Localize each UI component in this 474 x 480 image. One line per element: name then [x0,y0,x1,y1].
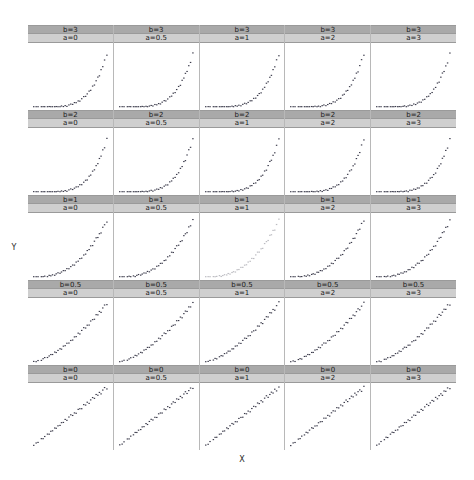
data-point [387,276,388,277]
data-point [351,242,352,243]
data-point [95,165,96,166]
panel-row: b=3a=0b=3a=0.5b=3a=1b=3a=2b=3a=3 [28,25,456,110]
data-point [347,322,348,323]
data-point [174,402,175,403]
scatter-panel: b=2a=0 [28,110,114,195]
data-point [70,104,71,105]
data-point [338,98,339,99]
data-point [295,191,296,192]
data-point [335,186,336,187]
data-point [253,406,254,407]
data-point [402,191,403,192]
scatter-points [28,213,113,280]
data-point [293,191,294,192]
data-point [300,191,301,192]
data-point [172,93,173,94]
data-point [209,441,210,442]
scatter-panel: b=2a=3 [371,110,456,195]
data-point [207,276,208,277]
data-point [387,357,388,358]
data-point [249,185,250,186]
strip-label-b: b=2 [371,110,456,119]
data-point [320,190,321,191]
data-point [293,442,294,443]
data-point [307,354,308,355]
data-point [353,80,354,81]
data-point [169,181,170,182]
data-point [61,190,62,191]
data-point [400,272,401,273]
data-point [364,55,365,56]
data-point [349,86,350,87]
data-point [364,386,365,387]
data-point [400,106,401,107]
data-point [167,256,168,257]
data-point [353,165,354,166]
data-point [386,437,387,438]
data-point [274,389,275,390]
data-point [358,308,359,309]
data-point [298,439,299,440]
data-point [145,191,146,192]
data-point [409,105,410,106]
data-point [447,387,448,388]
data-point [358,229,359,230]
data-point [260,92,261,93]
data-point [165,409,166,410]
data-point [64,345,65,346]
data-point [432,92,433,93]
data-point [269,77,270,78]
strip-label-b: b=2 [285,110,370,119]
data-point [445,391,446,392]
data-point [236,106,237,107]
data-point [295,276,296,277]
data-point [133,275,134,276]
data-point [220,276,221,277]
data-point [313,106,314,107]
data-point [174,248,175,249]
scatter-panel: b=0.5a=2 [285,280,371,365]
data-point [186,154,187,155]
strip-label-a: a=0 [28,374,113,383]
data-point [274,230,275,231]
data-point [123,191,124,192]
data-point [207,444,208,445]
data-point [186,232,187,233]
data-point [79,333,80,334]
data-point [220,106,221,107]
data-point [130,276,131,277]
data-point [220,355,221,356]
data-point [70,266,71,267]
data-point [181,317,182,318]
data-point [94,319,95,320]
data-point [44,106,45,107]
data-point [262,175,263,176]
data-point [42,276,43,277]
data-point [347,174,348,175]
data-point [315,106,316,107]
data-point [351,318,352,319]
scatter-panel: b=3a=3 [371,25,456,110]
data-point [74,336,75,337]
data-point [238,190,239,191]
data-point [186,71,187,72]
data-point [322,421,323,422]
data-point [171,96,172,97]
data-point [432,177,433,178]
data-point [48,106,49,107]
data-point [331,336,332,337]
data-point [322,191,323,192]
data-point [99,233,100,234]
data-point [138,191,139,192]
data-point [244,103,245,104]
data-point [147,191,148,192]
data-point [216,276,217,277]
data-point [440,237,441,238]
data-point [386,106,387,107]
data-point [148,421,149,422]
data-point [275,59,276,60]
data-point [249,335,250,336]
data-point [415,340,416,341]
data-point [44,191,45,192]
data-point [267,81,268,82]
